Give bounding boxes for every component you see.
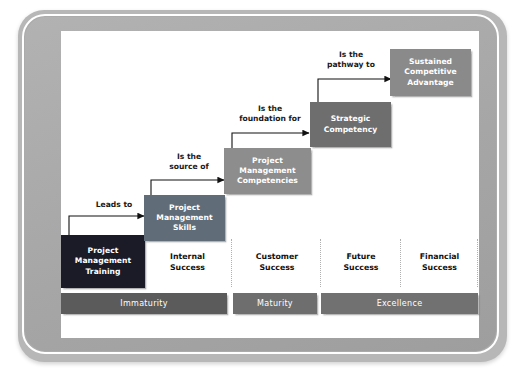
connector-label-leads-to: Leads to (85, 200, 143, 210)
step-box-sustained-competitive-advantage[interactable]: Sustained Competitive Advantage (390, 49, 471, 96)
diagram-screenshot: Leads to Is the source of Is the foundat… (0, 0, 524, 376)
step-box-project-management-training[interactable]: Project Management Training (61, 235, 145, 288)
success-label-customer-success: Customer Success (235, 240, 319, 286)
maturity-bar-excellence[interactable]: Excellence (321, 293, 478, 314)
step-box-strategic-competency[interactable]: Strategic Competency (310, 102, 391, 147)
maturity-bar-immaturity[interactable]: Immaturity (61, 293, 227, 314)
column-separator-4 (477, 239, 478, 287)
connector-label-is-the-foundation-for: Is the foundation for (228, 104, 312, 124)
step-box-project-management-skills[interactable]: Project Management Skills (144, 195, 225, 241)
column-separator-1 (231, 239, 232, 287)
step-box-project-management-competencies[interactable]: Project Management Competencies (224, 148, 311, 194)
connector-label-is-the-pathway-to: Is the pathway to (315, 50, 387, 70)
column-separator-3 (400, 239, 401, 287)
success-label-internal-success: Internal Success (145, 240, 230, 286)
column-separator-2 (320, 239, 321, 287)
success-label-financial-success: Financial Success (403, 240, 476, 286)
connector-label-is-the-source-of: Is the source of (157, 152, 221, 172)
success-label-future-success: Future Success (324, 240, 398, 286)
maturity-bar-maturity[interactable]: Maturity (233, 293, 317, 314)
diagram-canvas: Leads to Is the source of Is the foundat… (61, 31, 479, 338)
